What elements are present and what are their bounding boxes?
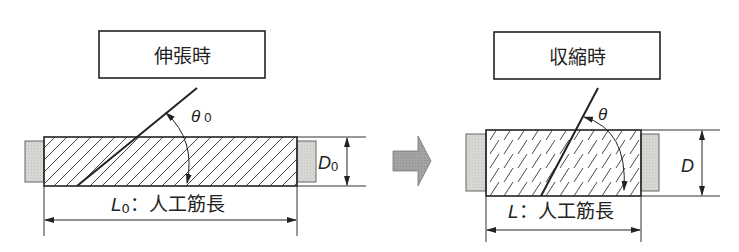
right-end-cap — [297, 141, 316, 182]
right-end-cap — [641, 134, 659, 191]
right-arrow-icon — [393, 136, 431, 186]
extended-title-box: 伸張時 — [99, 31, 265, 78]
diameter-label: D — [681, 156, 694, 176]
left-end-cap — [466, 134, 486, 191]
angle-label: θ — [598, 105, 608, 124]
angle-label: θ0 — [191, 107, 211, 126]
length-label: L：人工筋長 — [508, 200, 614, 222]
muscle-tube-extended — [44, 137, 297, 186]
artificial-muscle-diagram: 伸張時 θ0 D0 L0：人工筋長 収縮時 — [0, 0, 739, 252]
extended-title: 伸張時 — [154, 45, 211, 67]
muscle-tube-contracted — [486, 130, 641, 196]
left-end-cap — [25, 141, 44, 182]
contracted-state-panel: 収縮時 θ D L：人工筋長 — [466, 32, 720, 242]
contracted-title-box: 収縮時 — [494, 32, 660, 79]
extended-state-panel: 伸張時 θ0 D0 L0：人工筋長 — [25, 31, 366, 236]
contracted-title: 収縮時 — [549, 46, 606, 68]
diameter-label: D0 — [318, 153, 338, 174]
length-label: L0：人工筋長 — [111, 193, 225, 216]
